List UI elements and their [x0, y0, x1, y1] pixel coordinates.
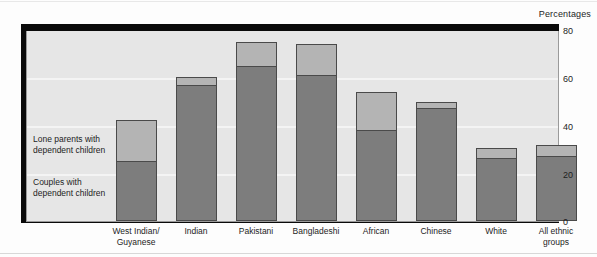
- bar-segment-couples: [416, 108, 457, 221]
- bar-segment-lone-parents: [536, 145, 577, 157]
- legend-item-couples: Couples with dependent children: [33, 177, 151, 198]
- chart-figure: Percentages: [0, 0, 597, 257]
- legend-label-line-1: Lone parents with: [33, 134, 151, 145]
- legend-label-line-2: dependent children: [33, 188, 151, 199]
- bar-segment-lone-parents: [416, 102, 457, 109]
- ytick-label-60: 60: [563, 74, 573, 84]
- bottom-divider: [0, 253, 597, 254]
- bar-segment-couples: [356, 130, 397, 221]
- bar-segment-couples: [476, 158, 517, 221]
- bar-segment-couples: [176, 85, 217, 221]
- xlabel-all-ethnic-groups: All ethnic groups: [513, 226, 597, 247]
- xlabel-line-1: All ethnic: [513, 226, 597, 237]
- xlabel-line-2: Guyanese: [93, 237, 179, 248]
- bar-segment-lone-parents: [176, 77, 217, 86]
- bar-segment-lone-parents: [236, 42, 277, 67]
- gridline-40: [27, 126, 558, 128]
- plot-area: Lone parents with dependent children Cou…: [26, 31, 559, 222]
- bar-segment-lone-parents: [476, 148, 517, 159]
- bar-segment-lone-parents: [296, 44, 337, 76]
- ytick-label-20: 20: [563, 170, 573, 180]
- gridline-60: [27, 78, 558, 80]
- ytick-label-80: 80: [563, 26, 573, 36]
- percentages-caption: Percentages: [539, 9, 591, 19]
- bar-segment-lone-parents: [356, 92, 397, 131]
- legend-label-line-2: dependent children: [33, 145, 151, 156]
- ytick-label-40: 40: [563, 122, 573, 132]
- bar-segment-couples: [296, 75, 337, 221]
- xlabel-line-2: groups: [513, 237, 597, 248]
- legend-label-line-1: Couples with: [33, 177, 151, 188]
- top-divider: [0, 1, 597, 2]
- bar-segment-couples: [236, 66, 277, 221]
- legend-item-lone-parents: Lone parents with dependent children: [33, 134, 151, 155]
- bar-segment-couples: [536, 156, 577, 221]
